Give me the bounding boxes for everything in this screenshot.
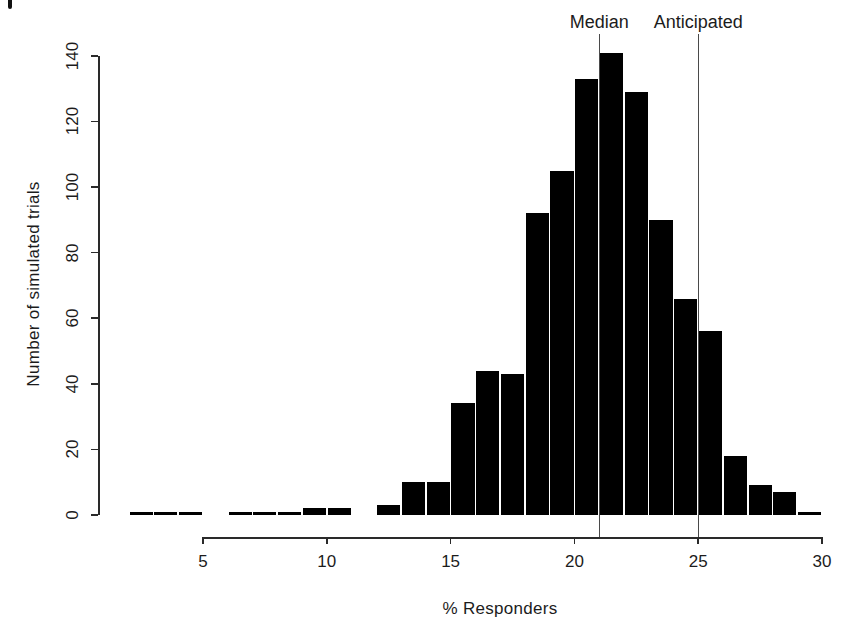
y-tick-label: 20 (64, 440, 81, 459)
y-tick-label: 0 (64, 510, 81, 519)
x-tick-mark (450, 537, 452, 544)
y-tick-mark (91, 514, 98, 516)
y-axis-title: Number of simulated trials (25, 181, 42, 386)
x-tick-label: 20 (565, 553, 584, 570)
x-tick-label: 25 (689, 553, 708, 570)
x-tick-mark (821, 537, 823, 544)
y-tick-mark (91, 121, 98, 123)
y-tick-label: 100 (64, 173, 81, 201)
annotation-label-median: Median (570, 13, 629, 31)
histogram-bar (724, 456, 747, 515)
histogram-bar (476, 371, 499, 515)
x-tick-label: 30 (813, 553, 832, 570)
figure-canvas: Number of simulated trials % Responders … (0, 0, 857, 641)
y-tick-mark (91, 383, 98, 385)
y-tick-mark (91, 449, 98, 451)
y-tick-label: 80 (64, 243, 81, 262)
histogram-bar (575, 79, 598, 515)
x-tick-label: 15 (441, 553, 460, 570)
histogram-bar (699, 331, 722, 515)
histogram-bar (600, 53, 623, 515)
histogram-bar (427, 482, 450, 515)
x-tick-label: 5 (198, 553, 207, 570)
x-tick-label: 10 (317, 553, 336, 570)
x-tick-mark (326, 537, 328, 544)
histogram-bar (798, 512, 821, 515)
histogram-bar (278, 512, 301, 515)
histogram-bar (749, 485, 772, 515)
x-axis-title: % Responders (442, 600, 557, 617)
histogram-bar (674, 299, 697, 515)
histogram-bar (773, 492, 796, 515)
histogram-bar (328, 508, 351, 515)
histogram-bar (402, 482, 425, 515)
histogram-bar (377, 505, 400, 515)
histogram-bar (229, 512, 252, 515)
histogram-bar (526, 213, 549, 515)
x-tick-mark (202, 537, 204, 544)
x-axis-line (203, 537, 822, 539)
y-axis-line (98, 56, 100, 515)
y-tick-label: 140 (64, 42, 81, 70)
y-tick-label: 40 (64, 374, 81, 393)
histogram-bar (625, 92, 648, 515)
histogram-bar (550, 171, 573, 515)
histogram-bar (649, 220, 672, 515)
y-tick-mark (91, 186, 98, 188)
histogram-bar (253, 512, 276, 515)
y-tick-label: 120 (64, 107, 81, 135)
y-tick-mark (91, 317, 98, 319)
histogram-bar (451, 403, 474, 515)
y-tick-label: 60 (64, 309, 81, 328)
y-tick-mark (91, 55, 98, 57)
histogram-bar (501, 374, 524, 515)
histogram-bar (179, 512, 202, 515)
annotation-label-anticipated: Anticipated (654, 13, 743, 31)
histogram-bar (303, 508, 326, 515)
x-tick-mark (574, 537, 576, 544)
histogram-bar (130, 512, 153, 515)
histogram-bar (154, 512, 177, 515)
page-edge-artifact (8, 0, 12, 9)
x-tick-mark (697, 537, 699, 544)
y-tick-mark (91, 252, 98, 254)
